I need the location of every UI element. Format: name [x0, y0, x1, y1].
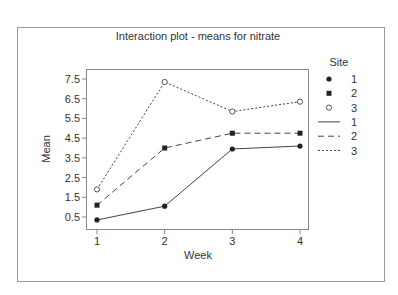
- x-axis-label: Week: [184, 249, 212, 261]
- x-tick-label: 3: [229, 235, 235, 247]
- y-tick-label: 3.5: [65, 152, 80, 164]
- filled-square-marker: [162, 146, 167, 151]
- x-tick-label: 2: [162, 235, 168, 247]
- open-circle-marker: [162, 79, 167, 84]
- filled-square-marker: [95, 203, 100, 208]
- legend-title: Site: [330, 56, 349, 68]
- legend-marker-label: 2: [351, 87, 357, 99]
- y-tick-label: 4.5: [65, 132, 80, 144]
- filled-circle-marker: [162, 204, 167, 209]
- filled-square-marker: [327, 91, 332, 96]
- x-tick-label: 4: [297, 235, 303, 247]
- filled-circle-marker: [297, 143, 302, 148]
- open-circle-marker: [297, 99, 302, 104]
- filled-circle-marker: [94, 217, 99, 222]
- x-tick-label: 1: [94, 235, 100, 247]
- legend-line-label: 2: [351, 130, 357, 142]
- filled-circle-marker: [326, 76, 331, 81]
- interaction-plot: Interaction plot - means for nitrate 0.5…: [0, 0, 398, 295]
- filled-square-marker: [298, 131, 303, 136]
- y-axis-label: Mean: [40, 135, 52, 163]
- y-tick-label: 5.5: [65, 112, 80, 124]
- legend-line-label: 1: [351, 116, 357, 128]
- open-circle-marker: [94, 187, 99, 192]
- y-tick-label: 0.5: [65, 211, 80, 223]
- legend-marker-label: 3: [351, 102, 357, 114]
- y-tick-label: 7.5: [65, 73, 80, 85]
- open-circle-marker: [230, 109, 235, 114]
- y-tick-label: 6.5: [65, 93, 80, 105]
- y-tick-label: 2.5: [65, 172, 80, 184]
- legend-line-label: 3: [351, 145, 357, 157]
- open-circle-marker: [326, 105, 331, 110]
- chart-title: Interaction plot - means for nitrate: [116, 30, 280, 42]
- y-tick-label: 1.5: [65, 191, 80, 203]
- filled-square-marker: [230, 131, 235, 136]
- filled-circle-marker: [230, 146, 235, 151]
- legend-marker-label: 1: [351, 73, 357, 85]
